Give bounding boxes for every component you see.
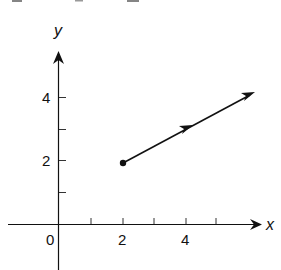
x-tick-label-4: 4 bbox=[181, 231, 189, 248]
y-tick-label-2: 2 bbox=[42, 152, 50, 169]
end-arrowhead-icon bbox=[241, 92, 255, 101]
directed-ray bbox=[120, 92, 255, 166]
cropped-text-fragments bbox=[12, 0, 139, 2]
x-axis-label: x bbox=[265, 216, 275, 233]
y-axis-label: y bbox=[53, 22, 63, 39]
x-ticks bbox=[91, 218, 216, 224]
y-tick-label-4: 4 bbox=[42, 89, 50, 106]
coordinate-plane-figure: y x 0 2 4 2 4 bbox=[0, 0, 281, 270]
x-tick-label-2: 2 bbox=[118, 231, 126, 248]
y-ticks bbox=[59, 98, 66, 193]
start-point-dot-icon bbox=[120, 160, 126, 166]
origin-label: 0 bbox=[46, 231, 54, 248]
